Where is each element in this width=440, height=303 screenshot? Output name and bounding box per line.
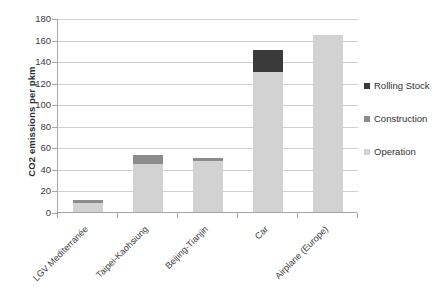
bar-segment-construction[interactable] — [133, 155, 163, 164]
legend-item[interactable]: Construction — [364, 113, 440, 124]
legend: Rolling StockConstructionOperation — [364, 80, 440, 179]
y-axis-tick-label: 0 — [19, 207, 51, 218]
x-axis-tick-mark — [177, 213, 178, 218]
x-axis-tick-mark — [237, 213, 238, 218]
x-axis-category-label: Car — [253, 224, 270, 241]
y-axis-tick-label: 160 — [19, 35, 51, 46]
x-axis-category-label: Taipei-Kaohsiung — [94, 224, 150, 280]
bar-stack[interactable] — [73, 200, 103, 212]
legend-item[interactable]: Operation — [364, 146, 440, 157]
y-axis-tick-label: 60 — [19, 142, 51, 153]
legend-label: Operation — [374, 146, 416, 157]
bar-segment-operation[interactable] — [133, 164, 163, 213]
legend-swatch-icon — [364, 116, 370, 122]
y-axis-tick-label: 140 — [19, 56, 51, 67]
bar-segment-rolling-stock[interactable] — [253, 50, 283, 72]
legend-item[interactable]: Rolling Stock — [364, 80, 440, 91]
legend-swatch-icon — [364, 149, 370, 155]
plot-area — [57, 19, 357, 213]
bar-segment-operation[interactable] — [253, 72, 283, 212]
x-axis-category-label: Beijing-Tianjin — [163, 224, 210, 271]
legend-label: Construction — [374, 113, 427, 124]
gridline — [58, 19, 358, 20]
legend-label: Rolling Stock — [374, 80, 429, 91]
bar-segment-operation[interactable] — [313, 35, 343, 212]
y-axis-tick-label: 80 — [19, 121, 51, 132]
bar-stack[interactable] — [313, 35, 343, 212]
x-axis-tick-mark — [357, 213, 358, 218]
x-axis-tick-mark — [57, 213, 58, 218]
y-axis-tick-label: 120 — [19, 78, 51, 89]
x-axis-tick-mark — [117, 213, 118, 218]
bar-segment-operation[interactable] — [73, 203, 103, 212]
x-axis-category-label: Airplane (Europe) — [273, 224, 330, 281]
bar-stack[interactable] — [253, 50, 283, 212]
bar-stack[interactable] — [133, 155, 163, 212]
x-axis-tick-mark — [297, 213, 298, 218]
bar-stack[interactable] — [193, 158, 223, 212]
co2-emissions-stacked-bar-chart: CO2 emissions per pkm 020406080100120140… — [0, 0, 440, 303]
bar-segment-operation[interactable] — [193, 161, 223, 212]
legend-swatch-icon — [364, 83, 370, 89]
x-axis-category-label: LGV Mediterranée — [31, 224, 90, 283]
y-axis-tick-label: 100 — [19, 99, 51, 110]
y-axis-tick-label: 40 — [19, 164, 51, 175]
y-axis-tick-label: 180 — [19, 13, 51, 24]
y-axis-tick-label: 20 — [19, 185, 51, 196]
